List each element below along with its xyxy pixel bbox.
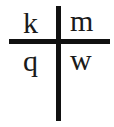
- top-right-letter: m: [70, 6, 93, 36]
- bottom-right-letter: w: [70, 45, 92, 75]
- top-left-letter: k: [23, 8, 38, 38]
- bottom-left-letter: q: [23, 46, 38, 76]
- vertical-line: [56, 6, 61, 121]
